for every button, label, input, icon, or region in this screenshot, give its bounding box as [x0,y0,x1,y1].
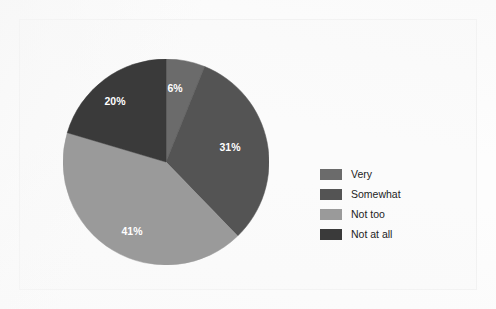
legend-item[interactable]: Somewhat [320,184,440,204]
pie-slice-label: 41% [121,225,143,237]
legend-item-label: Not too [351,209,385,220]
pie-slice-label: 31% [219,141,241,153]
legend-color-swatch [320,189,342,200]
pie-chart-figure: 6%31%41%20% VerySomewhatNot tooNot at al… [0,0,496,309]
legend-color-swatch [320,169,342,180]
legend-item[interactable]: Not too [320,204,440,224]
pie-slice-label: 6% [167,82,183,94]
legend-item[interactable]: Not at all [320,224,440,244]
legend-item[interactable]: Very [320,164,440,184]
pie-chart-plot-area: 6%31%41%20% [63,59,269,265]
legend-item-label: Very [351,169,372,180]
chart-legend: VerySomewhatNot tooNot at all [320,164,440,244]
pie-chart-svg: 6%31%41%20% [63,59,269,265]
legend-color-swatch [320,229,342,240]
pie-slice-label: 20% [104,95,126,107]
legend-item-label: Somewhat [351,189,401,200]
legend-item-label: Not at all [351,229,392,240]
legend-color-swatch [320,209,342,220]
pie-slice-group [63,59,269,265]
